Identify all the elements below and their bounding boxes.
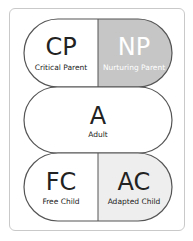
a-abbr: A bbox=[90, 102, 107, 130]
fc-label: Free Child bbox=[42, 197, 79, 206]
cp-label: Critical Parent bbox=[35, 63, 88, 72]
ac-label: Adapted Child bbox=[108, 197, 161, 206]
parent-pill: CP Critical Parent NP Nurturing Parent bbox=[24, 19, 172, 87]
fc-abbr: FC bbox=[46, 168, 77, 196]
adult-pill: A Adult bbox=[24, 87, 172, 153]
a-label: Adult bbox=[88, 130, 108, 139]
ac-abbr: AC bbox=[118, 168, 151, 196]
cp-abbr: CP bbox=[45, 33, 76, 61]
np-abbr: NP bbox=[118, 33, 150, 61]
child-pill: FC Free Child AC Adapted Child bbox=[24, 153, 172, 221]
np-label: Nurturing Parent bbox=[103, 63, 165, 72]
ego-state-diagram: CP Critical Parent NP Nurturing Parent A… bbox=[0, 0, 193, 241]
